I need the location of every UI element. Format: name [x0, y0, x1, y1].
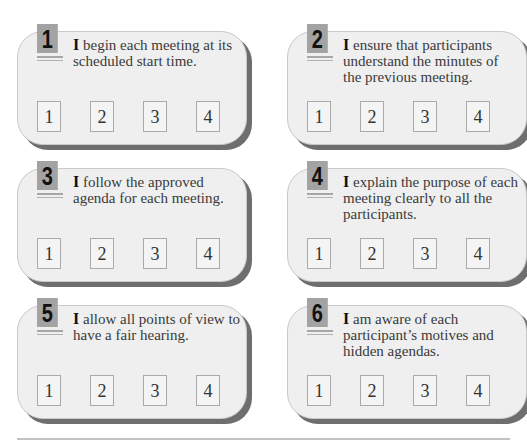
badge-underline	[37, 56, 63, 61]
rating-box-3[interactable]: 3	[413, 375, 437, 406]
badge-underline	[307, 330, 333, 335]
badge-underline	[37, 330, 63, 335]
rating-box-4[interactable]: 4	[196, 375, 220, 406]
rating-box-3[interactable]: 3	[143, 375, 167, 406]
rating-box-1[interactable]: 1	[307, 101, 331, 132]
rating-box-2[interactable]: 2	[360, 238, 384, 269]
item-number-badge: 5	[37, 298, 58, 327]
bottom-divider	[17, 438, 510, 440]
badge-underline	[307, 56, 333, 61]
statement-text: I follow the approved agenda for each me…	[73, 174, 248, 206]
rating-box-4[interactable]: 4	[466, 101, 490, 132]
badge-underline	[307, 193, 333, 198]
rating-box-2[interactable]: 2	[360, 101, 384, 132]
rating-options: 1 2 3 4	[307, 101, 490, 132]
statement-card-5: 5 I allow all points of view to have a f…	[17, 305, 247, 419]
rating-box-4[interactable]: 4	[466, 238, 490, 269]
statement-text: I begin each meeting at its scheduled st…	[73, 37, 248, 69]
rating-box-3[interactable]: 3	[413, 101, 437, 132]
rating-box-2[interactable]: 2	[90, 238, 114, 269]
rating-box-4[interactable]: 4	[466, 375, 490, 406]
rating-box-1[interactable]: 1	[307, 375, 331, 406]
rating-box-1[interactable]: 1	[37, 238, 61, 269]
statement-card-6: 6 I am aware of each participant’s motiv…	[287, 305, 527, 419]
statement-text: I explain the purpose of each meeting cl…	[343, 174, 518, 222]
rating-box-2[interactable]: 2	[90, 375, 114, 406]
item-number-badge: 3	[37, 161, 58, 190]
rating-box-2[interactable]: 2	[90, 101, 114, 132]
rating-options: 1 2 3 4	[307, 238, 490, 269]
item-number-badge: 1	[37, 24, 58, 53]
statement-card-1: 1 I begin each meeting at its scheduled …	[17, 31, 247, 145]
rating-options: 1 2 3 4	[37, 238, 220, 269]
rating-options: 1 2 3 4	[307, 375, 490, 406]
rating-box-3[interactable]: 3	[413, 238, 437, 269]
rating-box-2[interactable]: 2	[360, 375, 384, 406]
statement-card-3: 3 I follow the approved agenda for each …	[17, 168, 247, 282]
statement-card-4: 4 I explain the purpose of each meeting …	[287, 168, 527, 282]
rating-box-3[interactable]: 3	[143, 238, 167, 269]
statement-text: I allow all points of view to have a fai…	[73, 311, 248, 343]
item-number-badge: 6	[307, 298, 328, 327]
rating-options: 1 2 3 4	[37, 375, 220, 406]
rating-box-4[interactable]: 4	[196, 101, 220, 132]
item-number-badge: 2	[307, 24, 328, 53]
statement-text: I am aware of each participant’s motives…	[343, 311, 518, 359]
badge-underline	[37, 193, 63, 198]
rating-box-1[interactable]: 1	[307, 238, 331, 269]
rating-box-1[interactable]: 1	[37, 101, 61, 132]
rating-box-1[interactable]: 1	[37, 375, 61, 406]
rating-box-4[interactable]: 4	[196, 238, 220, 269]
statement-text: I ensure that participants understand th…	[343, 37, 518, 85]
rating-box-3[interactable]: 3	[143, 101, 167, 132]
item-number-badge: 4	[307, 161, 328, 190]
rating-options: 1 2 3 4	[37, 101, 220, 132]
statement-card-2: 2 I ensure that participants understand …	[287, 31, 527, 145]
